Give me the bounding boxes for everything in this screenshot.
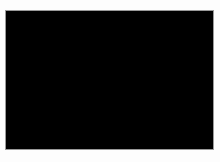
molecule-spacefill-render (6, 11, 213, 149)
molecule-viewport (5, 10, 214, 150)
figure-root (0, 0, 220, 162)
